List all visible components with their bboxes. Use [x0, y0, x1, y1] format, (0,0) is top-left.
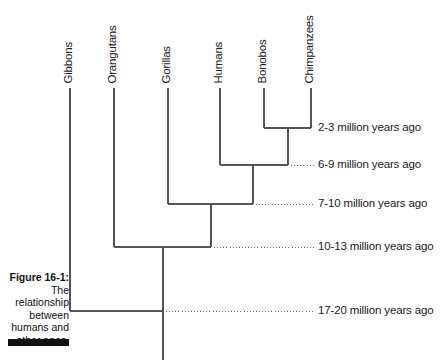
figure-caption-title: Figure 16-1:: [0, 271, 69, 284]
taxon-label-gibbons: Gibbons: [63, 42, 75, 83]
figure-caption: Figure 16-1: The relationship between hu…: [0, 271, 69, 347]
taxon-label-bonobos: Bonobos: [257, 40, 269, 84]
figure-caption-body: The relationship between humans and othe…: [0, 284, 69, 347]
taxon-label-humans: Humans: [213, 42, 225, 84]
node-branch-group: [70, 128, 311, 311]
tip-branch-group: [70, 88, 311, 311]
epoch-label-pan: 2-3 million years ago: [318, 122, 421, 134]
epoch-label-hominoidea: 17-20 million years ago: [318, 305, 433, 317]
epoch-label-homininae: 7-10 million years ago: [318, 198, 427, 210]
taxon-label-gorillas: Gorillas: [161, 46, 173, 83]
taxon-label-chimpanzees: Chimpanzees: [304, 15, 316, 83]
leader-line-group: [166, 165, 314, 311]
figure-phylogenetic-tree: GibbonsOrangutansGorillasHumansBonobosCh…: [0, 0, 446, 364]
caption-rule: [8, 339, 69, 346]
taxon-label-orangutans: Orangutans: [107, 25, 119, 83]
epoch-label-hominini: 6-9 million years ago: [318, 159, 421, 171]
epoch-label-hominidae: 10-13 million years ago: [318, 241, 433, 253]
